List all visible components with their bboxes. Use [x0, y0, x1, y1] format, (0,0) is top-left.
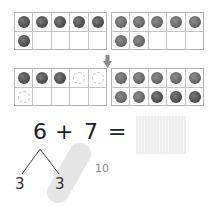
part-b: 3	[55, 177, 65, 192]
number-bond-lines	[0, 0, 210, 206]
part-a: 3	[15, 177, 25, 192]
make-ten-label: 10	[95, 163, 109, 174]
